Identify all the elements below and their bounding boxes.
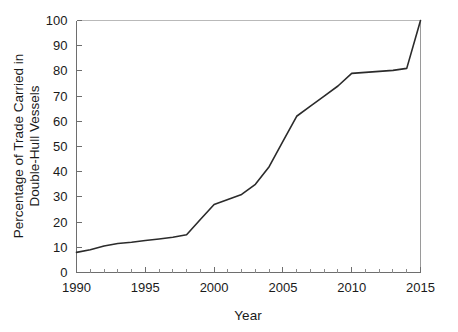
y-tick-label: 90 bbox=[53, 38, 67, 53]
y-axis-ticks bbox=[77, 21, 82, 273]
x-axis-minor-ticks bbox=[90, 269, 406, 273]
x-tick-label: 1995 bbox=[131, 280, 160, 295]
y-tick-label: 0 bbox=[60, 265, 67, 280]
y-tick-label: 80 bbox=[53, 63, 67, 78]
x-tick-label: 1990 bbox=[62, 280, 91, 295]
y-tick-label: 60 bbox=[53, 114, 67, 129]
y-tick-label: 70 bbox=[53, 89, 67, 104]
x-tick-label: 2015 bbox=[406, 280, 435, 295]
y-tick-label: 100 bbox=[46, 13, 68, 28]
y-axis-title-line-2: Double-Hull Vessels bbox=[27, 85, 42, 206]
y-tick-label: 40 bbox=[53, 164, 67, 179]
x-axis-title: Year bbox=[234, 308, 262, 323]
x-tick-label: 2005 bbox=[268, 280, 297, 295]
y-tick-label: 30 bbox=[53, 189, 67, 204]
y-axis-title-line-1: Percentage of Trade Carried in bbox=[11, 54, 26, 239]
y-tick-label: 10 bbox=[53, 240, 67, 255]
y-tick-label: 20 bbox=[53, 215, 67, 230]
x-axis-tick-labels: 199019952000200520102015 bbox=[62, 280, 435, 295]
y-tick-label: 50 bbox=[53, 139, 67, 154]
data-series-line bbox=[77, 21, 421, 253]
x-tick-label: 2000 bbox=[200, 280, 229, 295]
y-axis-tick-labels: 0102030405060708090100 bbox=[46, 13, 68, 280]
line-chart-figure: 0102030405060708090100 19901995200020052… bbox=[0, 0, 458, 332]
x-tick-label: 2010 bbox=[337, 280, 366, 295]
plot-frame bbox=[77, 21, 421, 273]
x-axis-major-ticks bbox=[77, 267, 421, 273]
y-axis-title: Percentage of Trade Carried in Double-Hu… bbox=[11, 54, 42, 239]
chart-container: 0102030405060708090100 19901995200020052… bbox=[0, 0, 458, 332]
